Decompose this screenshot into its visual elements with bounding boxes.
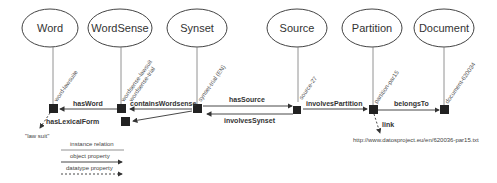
- instance-label-document: document-620034: [444, 61, 477, 105]
- label-involvesPartition: involvesPartition: [306, 100, 362, 107]
- class-synset: Synset: [167, 9, 227, 47]
- class-label: Source: [280, 22, 315, 34]
- class-wordsense: WordSense: [88, 9, 152, 47]
- class-document: Document: [414, 9, 474, 47]
- label-hasSource: hasSource: [229, 96, 265, 103]
- legend-datatype-property: datatype property: [66, 165, 113, 171]
- instance-label-source: source-27: [298, 75, 319, 101]
- instance-label-synset: synset-trial (EN): [197, 64, 227, 103]
- legend-instance-relation: instance relation: [70, 141, 114, 147]
- class-label: Partition: [352, 22, 392, 34]
- instance-label-word: word-lawsuite: [52, 69, 79, 104]
- literal-url: http://www.datosproject.eu/en/620036-par…: [353, 137, 479, 143]
- label-containsWordsense: containsWordsense: [130, 100, 196, 107]
- legend-object-property: object property: [70, 153, 110, 159]
- class-label: Word: [37, 22, 63, 34]
- node-source: [293, 106, 301, 114]
- label-involvesSynset: involvesSynset: [224, 117, 276, 125]
- class-source: Source: [267, 9, 327, 47]
- label-belongsTo: belongsTo: [394, 100, 429, 108]
- class-label: Synset: [180, 22, 214, 34]
- class-label: WordSense: [91, 22, 148, 34]
- literal-lexical-form: "law suit": [25, 133, 49, 139]
- node-wordsense-lawsuit: [117, 104, 126, 113]
- node-wordsense-trial: [121, 117, 130, 126]
- node-word: [49, 104, 58, 113]
- label-hasWord: hasWord: [73, 100, 103, 107]
- edge-containsWordsense-2: [133, 111, 192, 121]
- node-document: [440, 105, 449, 114]
- class-label: Document: [419, 22, 469, 34]
- edge-link: [374, 114, 380, 133]
- label-hasLexicalForm: hasLexicalForm: [46, 118, 99, 125]
- class-partition: Partition: [342, 9, 402, 47]
- legend: instance relation object property dataty…: [61, 141, 124, 174]
- node-partition: [369, 105, 378, 114]
- label-link: link: [382, 121, 394, 128]
- class-word: Word: [22, 9, 78, 47]
